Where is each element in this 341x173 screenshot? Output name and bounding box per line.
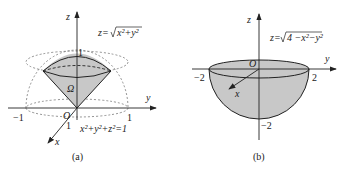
svg-text:z=: z= xyxy=(97,27,109,38)
tick-y-1: 1 xyxy=(127,112,132,123)
sphere-equation: x²+y²+z²=1 xyxy=(79,123,127,134)
panel-a: z y x O Ω 1 −1 1 1 z= x²+y² x²+y²+z²=1 (… xyxy=(8,11,156,163)
tick-y-neg1: −1 xyxy=(13,112,24,123)
tick-x-1: 1 xyxy=(66,120,71,131)
tick-z-1: 1 xyxy=(78,47,83,58)
svg-text:z=: z= xyxy=(269,32,281,43)
caption-a: (a) xyxy=(72,151,83,163)
x-axis-label: x xyxy=(54,136,60,147)
caption-b: (b) xyxy=(253,151,265,163)
y-axis-label-b: y xyxy=(324,53,330,64)
z-axis-label-b: z xyxy=(246,14,251,25)
cone-equation: z= x²+y² xyxy=(97,27,142,38)
hemisphere-equation: z= 4 −x²−y² xyxy=(269,32,324,43)
diagram-canvas: z y x O Ω 1 −1 1 1 z= x²+y² x²+y²+z²=1 (… xyxy=(0,0,341,173)
svg-text:x²+y²: x²+y² xyxy=(116,27,140,38)
svg-text:4 −x²−y²: 4 −x²−y² xyxy=(287,32,324,43)
z-axis-label: z xyxy=(65,11,70,22)
origin-label-b: O xyxy=(249,58,256,69)
region-label: Ω xyxy=(67,83,74,94)
tick-z-neg2: −2 xyxy=(261,120,272,131)
y-axis-label: y xyxy=(145,92,151,103)
tick-y-neg2: −2 xyxy=(194,72,205,83)
panel-b: z y x O −2 2 −2 z= 4 −x²−y² (b) xyxy=(192,14,336,163)
tick-y-2: 2 xyxy=(312,72,317,83)
x-axis-label-b: x xyxy=(234,88,240,99)
